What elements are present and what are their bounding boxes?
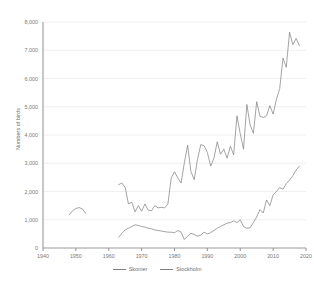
series-lines: [69, 32, 299, 239]
legend-label: Skomer: [129, 266, 148, 272]
x-tick-label: 2020: [300, 253, 312, 259]
axis-lines: [43, 22, 306, 251]
bird-counts-line-chart: Numbers of birds 01,0002,0003,0004,0005,…: [0, 0, 314, 285]
y-tick-label: 7,000: [8, 47, 38, 53]
series-line-skomer: [119, 32, 300, 212]
legend-item-skomer[interactable]: Skomer: [113, 266, 148, 272]
series-line-skomer: [69, 208, 85, 215]
x-tick-label: 1940: [37, 253, 49, 259]
plot-svg: [43, 22, 306, 248]
y-tick-label: 8,000: [8, 19, 38, 25]
y-tick-label: 1,000: [8, 217, 38, 223]
x-tick-label: 2010: [267, 253, 279, 259]
legend-line-swatch-icon: [113, 269, 126, 270]
legend-label: Stockholm: [176, 266, 201, 272]
y-tick-label: 4,000: [8, 132, 38, 138]
y-axis-tick-labels: 01,0002,0003,0004,0005,0006,0007,0008,00…: [8, 0, 38, 285]
gridlines: [43, 22, 306, 220]
legend-line-swatch-icon: [160, 269, 173, 270]
y-tick-label: 0: [8, 245, 38, 251]
x-tick-label: 1960: [103, 253, 115, 259]
y-tick-label: 5,000: [8, 104, 38, 110]
series-line-stockholm: [119, 166, 300, 239]
chart-legend: SkomerStockholm: [0, 266, 314, 272]
legend-item-stockholm[interactable]: Stockholm: [160, 266, 201, 272]
x-tick-label: 2000: [234, 253, 246, 259]
y-tick-label: 2,000: [8, 189, 38, 195]
x-tick-label: 1980: [169, 253, 181, 259]
plot-area: [43, 22, 306, 248]
y-tick-label: 6,000: [8, 76, 38, 82]
y-tick-label: 3,000: [8, 160, 38, 166]
x-tick-label: 1950: [70, 253, 82, 259]
x-tick-label: 1990: [201, 253, 213, 259]
x-tick-label: 1970: [136, 253, 148, 259]
